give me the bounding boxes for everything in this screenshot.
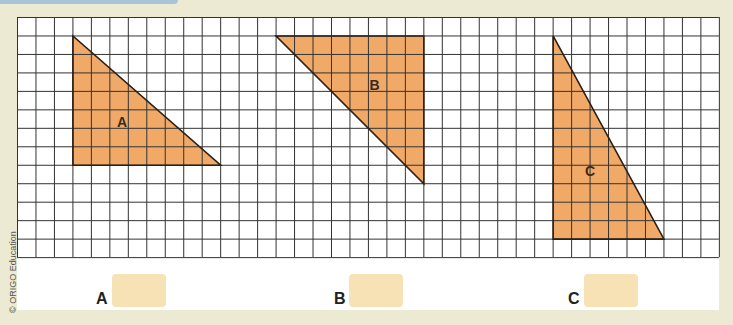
- triangle-label-b: B: [370, 77, 380, 93]
- answer-label-b: B: [334, 290, 346, 308]
- triangle-label-c: C: [585, 163, 595, 179]
- answer-box-b[interactable]: [349, 274, 403, 307]
- answer-label-a: A: [96, 290, 108, 308]
- grid-paper: ABC: [17, 17, 720, 264]
- answer-label-c: C: [568, 290, 580, 308]
- answer-box-a[interactable]: [112, 274, 166, 307]
- triangle-label-a: A: [117, 114, 127, 130]
- header-bar: [0, 0, 178, 4]
- answer-box-c[interactable]: [584, 274, 638, 307]
- copyright-text: © ORIGO Education: [8, 233, 18, 313]
